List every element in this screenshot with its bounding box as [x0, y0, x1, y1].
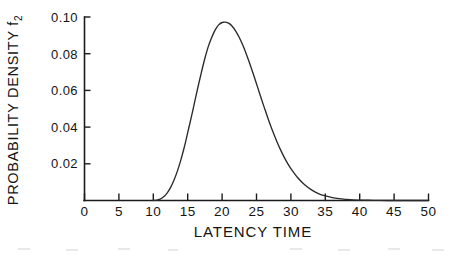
y-axis-title-text: PROBABILITY DENSITY f: [5, 21, 21, 205]
figure-page: PROBABILITY DENSITY f2 0.10 0.08 0.06 0.…: [0, 0, 453, 256]
x-tick-label: 10: [145, 204, 161, 219]
svg-text:PROBABILITY DENSITY f2: PROBABILITY DENSITY f2: [5, 15, 24, 205]
x-tick-label: 45: [386, 204, 402, 219]
x-tick-label: 25: [248, 204, 264, 219]
x-tick-label: 20: [214, 204, 230, 219]
y-axis-title: PROBABILITY DENSITY f2: [5, 15, 24, 205]
x-tick-label: 0: [80, 204, 88, 219]
y-tick-labels: 0.10 0.08 0.06 0.04 0.02: [51, 10, 78, 171]
probability-density-chart: PROBABILITY DENSITY f2 0.10 0.08 0.06 0.…: [0, 0, 453, 256]
x-axis-ticks: [85, 194, 429, 201]
x-tick-label: 5: [115, 204, 123, 219]
x-tick-label: 30: [283, 204, 299, 219]
y-tick-label: 0.06: [51, 83, 78, 98]
y-tick-label: 0.10: [51, 10, 78, 25]
scan-artifacts: [18, 248, 444, 251]
x-tick-label: 50: [420, 204, 436, 219]
x-tick-label: 35: [317, 204, 333, 219]
density-curve: [153, 22, 428, 200]
y-tick-label: 0.04: [51, 120, 78, 135]
y-axis-title-subscript: 2: [13, 15, 24, 21]
y-tick-label: 0.08: [51, 47, 78, 62]
x-tick-label: 15: [180, 204, 196, 219]
x-tick-label: 40: [352, 204, 368, 219]
x-axis-title: LATENCY TIME: [194, 223, 312, 240]
axes: [84, 17, 429, 201]
x-tick-labels: 0 5 10 15 20 25 30 35 40 45 50: [80, 204, 436, 219]
y-tick-label: 0.02: [51, 156, 78, 171]
y-axis-ticks: [85, 17, 91, 164]
